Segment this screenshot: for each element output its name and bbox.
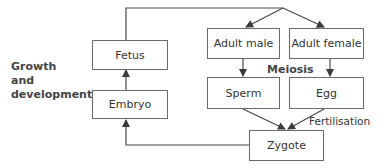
- adult-female-label: Adult female: [291, 37, 361, 50]
- meiosis-label: Meiosis: [267, 63, 314, 76]
- adult-male-box: Adult male: [207, 28, 280, 59]
- sperm-label: Sperm: [226, 87, 262, 100]
- egg-label: Egg: [316, 87, 337, 100]
- fetus-label: Fetus: [115, 49, 145, 62]
- embryo-box: Embryo: [92, 90, 168, 119]
- sperm-box: Sperm: [207, 77, 280, 109]
- zygote-box: Zygote: [249, 130, 324, 161]
- adult-male-label: Adult male: [214, 37, 273, 50]
- adult-female-box: Adult female: [289, 28, 364, 59]
- fertilisation-label: Fertilisation: [309, 115, 370, 127]
- zygote-label: Zygote: [267, 139, 306, 152]
- embryo-label: Embryo: [109, 98, 151, 111]
- egg-box: Egg: [289, 77, 364, 109]
- fetus-box: Fetus: [92, 40, 168, 70]
- growth-label: Growth and development: [11, 60, 92, 102]
